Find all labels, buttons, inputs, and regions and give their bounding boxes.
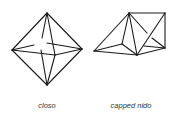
- capped-nido-shape: [94, 13, 165, 55]
- closo-octahedron-shape: [12, 13, 82, 85]
- polyhedra-figure: closo capped nido: [0, 0, 176, 124]
- closo-label: closo: [26, 101, 68, 110]
- capped-nido-label: capped nido: [100, 101, 162, 110]
